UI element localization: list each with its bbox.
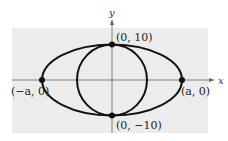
label-left-point: (−a, 0) — [11, 85, 49, 98]
point-right — [179, 77, 185, 83]
label-bottom-point: (0, −10) — [116, 119, 162, 132]
label-top-point: (0, 10) — [116, 31, 153, 44]
point-bottom — [109, 113, 115, 119]
point-left — [39, 77, 45, 83]
x-axis-arrow-icon — [209, 78, 215, 82]
y-axis-arrow-icon — [110, 19, 114, 25]
x-axis-label: x — [218, 75, 224, 86]
y-axis-label: y — [108, 7, 115, 18]
ellipse-circle-diagram: x y (0, 10) (0, −10) (−a, 0) (a, 0) — [0, 0, 228, 141]
point-top — [109, 42, 115, 48]
label-right-point: (a, 0) — [181, 85, 210, 98]
